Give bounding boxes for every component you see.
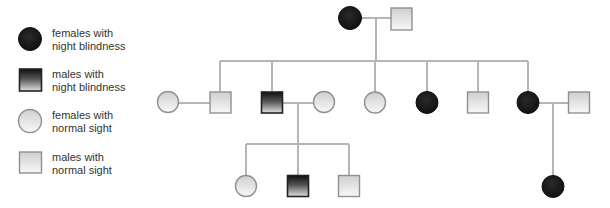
normal-female-icon: [158, 92, 179, 113]
normal-male-icon: [569, 92, 590, 113]
legend-label-normal-female: females with normal sight: [52, 109, 113, 135]
generation-3: [236, 176, 565, 198]
normal-female-icon: [236, 176, 257, 197]
legend-normal-male-icon: [20, 152, 42, 173]
affected-female-icon: [542, 176, 564, 198]
legend-affected-female-icon: [19, 28, 42, 51]
affected-male-icon: [288, 176, 309, 197]
normal-female-icon: [314, 92, 335, 113]
pedigree-diagram: females with night blindness males with …: [0, 0, 610, 208]
legend-label-affected-female: females with night blindness: [52, 27, 125, 53]
affected-male-icon: [262, 92, 283, 113]
legend: [19, 28, 42, 174]
legend-normal-female-icon: [19, 110, 42, 133]
generation-2: [158, 92, 590, 114]
normal-female-icon: [365, 92, 386, 113]
legend-affected-male-icon: [20, 69, 42, 91]
normal-male-icon: [391, 8, 412, 30]
normal-male-icon: [210, 92, 231, 113]
normal-male-icon: [468, 92, 489, 113]
affected-female-icon: [339, 7, 362, 30]
legend-label-affected-male: males with night blindness: [52, 68, 125, 94]
legend-label-normal-male: males with normal sight: [52, 151, 112, 177]
normal-male-icon: [339, 176, 360, 197]
affected-female-icon: [517, 92, 539, 114]
affected-female-icon: [416, 92, 438, 114]
